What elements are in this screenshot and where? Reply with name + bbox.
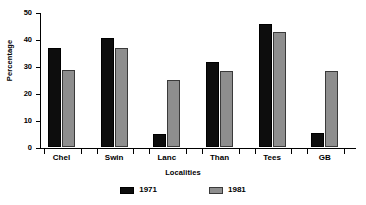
legend-label-1981: 1981 <box>228 186 246 194</box>
y-tick-label-20: 20 <box>12 90 32 98</box>
legend-label-1971: 1971 <box>139 186 157 194</box>
y-tick-0 <box>36 148 41 149</box>
bar-than-1971 <box>206 62 219 147</box>
y-tick-40 <box>36 40 41 41</box>
y-tick-20 <box>36 94 41 95</box>
y-tick-30 <box>36 67 41 68</box>
y-axis-line <box>40 13 41 149</box>
legend-swatch-1971 <box>120 187 134 194</box>
bar-swin-1971 <box>101 38 114 147</box>
x-category-label-gb: GB <box>295 154 355 162</box>
x-category-label-tees: Tees <box>242 154 302 162</box>
y-tick-label-50: 50 <box>12 9 32 17</box>
x-axis-line <box>40 148 356 149</box>
x-category-label-lanc: Lanc <box>137 154 197 162</box>
y-tick-label-30: 30 <box>12 63 32 71</box>
bar-lanc-1971 <box>153 134 166 148</box>
chart-legend: 1971 1981 <box>0 186 366 194</box>
legend-swatch-1981 <box>209 187 223 194</box>
bar-tees-1971 <box>259 24 272 147</box>
legend-item-1981: 1981 <box>209 186 246 194</box>
bar-lanc-1981 <box>167 80 180 147</box>
y-tick-label-10: 10 <box>12 117 32 125</box>
bar-chart: Percentage 01020304050 ChelSwinLancThanT… <box>0 0 366 205</box>
bar-gb-1981 <box>325 71 338 147</box>
x-category-label-swin: Swin <box>84 154 144 162</box>
legend-item-1971: 1971 <box>120 186 157 194</box>
y-tick-50 <box>36 13 41 14</box>
x-category-label-than: Than <box>190 154 250 162</box>
y-tick-label-0: 0 <box>12 144 32 152</box>
x-axis-title: Localities <box>0 168 366 177</box>
y-tick-10 <box>36 121 41 122</box>
y-tick-label-40: 40 <box>12 36 32 44</box>
plot-area: 01020304050 <box>40 13 356 148</box>
bar-chel-1981 <box>62 70 75 147</box>
bar-tees-1981 <box>273 32 286 147</box>
bar-swin-1981 <box>115 48 128 147</box>
bar-gb-1971 <box>311 133 324 147</box>
x-category-label-chel: Chel <box>32 154 92 162</box>
bar-than-1981 <box>220 71 233 147</box>
bar-chel-1971 <box>48 48 61 147</box>
